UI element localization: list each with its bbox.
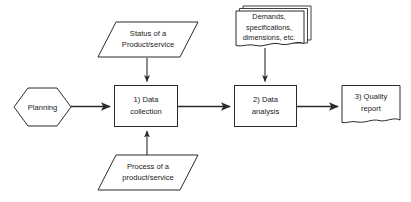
node-planning-label: Planning xyxy=(28,103,58,112)
node-data-collection[interactable]: 1) Data collection xyxy=(115,86,178,127)
node-data-analysis-label-2: analysis xyxy=(252,107,280,116)
node-process-input-label-1: Process of a xyxy=(127,162,170,171)
node-planning[interactable]: Planning xyxy=(14,88,71,126)
node-quality-report-label-1: 3) Quality xyxy=(355,92,388,101)
node-demands-label-2: specifications, xyxy=(246,23,292,32)
node-quality-report-label-2: report xyxy=(361,104,382,113)
node-data-analysis-label-1: 2) Data xyxy=(253,95,279,104)
node-demands-label-1: Demands, xyxy=(252,12,285,21)
node-data-analysis[interactable]: 2) Data analysis xyxy=(235,86,297,127)
node-status-input-label-2: Product/service xyxy=(122,40,174,49)
node-process-input-label-2: product/service xyxy=(122,173,174,182)
node-demands-documents[interactable]: Demands, specifications, dimensions, etc… xyxy=(236,6,311,46)
node-quality-report[interactable]: 3) Quality report xyxy=(342,86,400,123)
flowchart-diagram: Planning Status of a Product/service Pro… xyxy=(0,0,411,202)
node-data-collection-label-2: collection xyxy=(130,107,162,116)
node-status-input-label-1: Status of a xyxy=(130,29,167,38)
node-status-input[interactable]: Status of a Product/service xyxy=(98,22,198,57)
node-process-input[interactable]: Process of a product/service xyxy=(98,155,198,190)
node-demands-label-3: dimensions, etc. xyxy=(243,33,296,42)
node-data-collection-label-1: 1) Data xyxy=(134,95,160,104)
